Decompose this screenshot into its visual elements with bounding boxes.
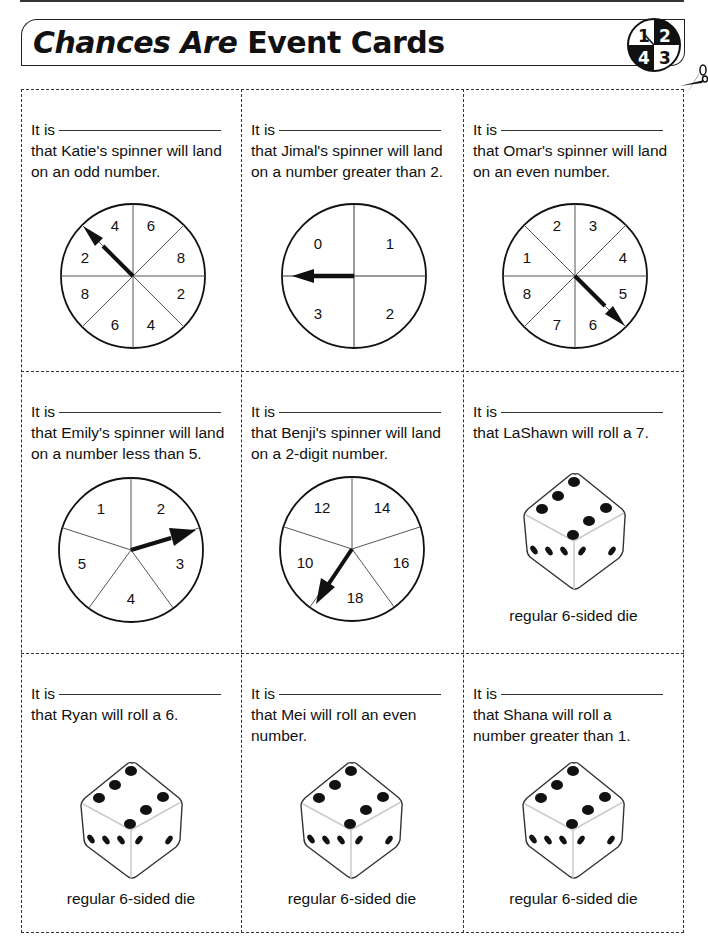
prefix: It is — [31, 403, 55, 420]
answer-blank[interactable] — [279, 693, 441, 695]
card-text: It is that Shana will roll a number grea… — [473, 683, 683, 746]
answer-blank[interactable] — [279, 129, 441, 131]
svg-text:2: 2 — [177, 285, 185, 302]
prefix: It is — [31, 121, 55, 138]
statement-line2: on a number greater than 2. — [251, 163, 443, 180]
spinner-5-sections: 14 16 18 10 12 — [278, 475, 426, 623]
svg-text:14: 14 — [374, 499, 391, 516]
prefix: It is — [251, 403, 275, 420]
event-card-shana: It is that Shana will roll a number grea… — [463, 653, 684, 933]
svg-text:8: 8 — [81, 285, 89, 302]
spinner-5-sections: 2 3 4 5 1 — [57, 476, 205, 624]
die-icon — [79, 760, 185, 880]
answer-blank[interactable] — [59, 411, 221, 413]
statement-line1: that Emily's spinner will land — [31, 424, 224, 441]
prefix: It is — [251, 121, 275, 138]
die-caption: regular 6-sided die — [21, 890, 241, 908]
statement-line1: that Benji's spinner will land — [251, 424, 441, 441]
die-caption: regular 6-sided die — [463, 607, 684, 625]
svg-text:4: 4 — [111, 217, 119, 234]
card-text: It is that LaShawn will roll a 7. — [473, 401, 683, 443]
svg-text:1: 1 — [523, 249, 531, 266]
title-italic: Chances Are — [33, 25, 237, 60]
die-caption: regular 6-sided die — [241, 890, 463, 908]
event-card-katie: It is that Katie's spinner will land on … — [21, 89, 241, 371]
svg-text:1: 1 — [386, 235, 394, 252]
svg-text:18: 18 — [347, 589, 364, 606]
statement-line1: that Ryan will roll a 6. — [31, 706, 178, 723]
svg-text:6: 6 — [111, 316, 119, 333]
statement-line1: that Omar's spinner will land — [473, 142, 667, 159]
svg-text:1: 1 — [97, 500, 105, 517]
card-text: It is that Benji's spinner will land on … — [251, 401, 461, 464]
die-caption: regular 6-sided die — [463, 890, 684, 908]
event-card-ryan: It is that Ryan will roll a 6. regular 6… — [21, 653, 241, 933]
card-text: It is that Katie's spinner will land on … — [31, 119, 241, 182]
prefix: It is — [31, 685, 55, 702]
prefix: It is — [473, 685, 497, 702]
svg-text:2: 2 — [386, 305, 394, 322]
svg-text:2: 2 — [157, 500, 165, 517]
statement-line2: number greater than 1. — [473, 727, 631, 744]
card-text: It is that Emily's spinner will land on … — [31, 401, 241, 464]
event-card-benji: It is that Benji's spinner will land on … — [241, 371, 463, 653]
svg-text:5: 5 — [78, 555, 86, 572]
statement-line1: that Katie's spinner will land — [31, 142, 222, 159]
spinner-8-sections: 3 4 5 6 7 8 1 2 — [501, 202, 649, 350]
statement-line2: on an even number. — [473, 163, 610, 180]
card-text: It is that Omar's spinner will land on a… — [473, 119, 683, 182]
answer-blank[interactable] — [501, 411, 663, 413]
event-card-jimal: It is that Jimal's spinner will land on … — [241, 89, 463, 371]
svg-text:2: 2 — [659, 26, 671, 46]
spinner-8-sections: 6 8 2 4 6 8 2 4 — [59, 202, 207, 350]
statement-line2: on a number less than 5. — [31, 445, 202, 462]
svg-text:0: 0 — [314, 235, 322, 252]
spinner-4-sections: 1 2 3 0 — [280, 202, 428, 350]
statement-line1: that LaShawn will roll a 7. — [473, 424, 649, 441]
statement-line2: on a 2-digit number. — [251, 445, 388, 462]
event-card-emily: It is that Emily's spinner will land on … — [21, 371, 241, 653]
die-icon — [299, 760, 405, 880]
answer-blank[interactable] — [59, 693, 221, 695]
die-icon — [522, 471, 628, 591]
page-title: Chances Are Event Cards — [33, 23, 445, 63]
statement-line2: on an odd number. — [31, 163, 160, 180]
svg-text:7: 7 — [553, 316, 561, 333]
svg-text:1: 1 — [638, 26, 650, 46]
svg-text:8: 8 — [523, 285, 531, 302]
event-card-omar: It is that Omar's spinner will land on a… — [463, 89, 684, 371]
svg-text:8: 8 — [177, 249, 185, 266]
die-icon — [521, 760, 627, 880]
svg-text:3: 3 — [589, 217, 597, 234]
svg-text:12: 12 — [314, 499, 331, 516]
statement-line1: that Jimal's spinner will land — [251, 142, 443, 159]
svg-text:6: 6 — [589, 316, 597, 333]
prefix: It is — [473, 121, 497, 138]
svg-text:16: 16 — [393, 554, 410, 571]
svg-text:4: 4 — [127, 590, 135, 607]
svg-text:3: 3 — [176, 555, 184, 572]
svg-text:2: 2 — [81, 249, 89, 266]
svg-text:5: 5 — [619, 285, 627, 302]
answer-blank[interactable] — [501, 129, 663, 131]
answer-blank[interactable] — [59, 129, 221, 131]
svg-text:6: 6 — [147, 217, 155, 234]
answer-blank[interactable] — [279, 411, 441, 413]
spinner-logo-icon: 1 2 3 4 — [626, 17, 682, 73]
svg-text:4: 4 — [147, 316, 155, 333]
card-text: It is that Mei will roll an even number. — [251, 683, 461, 746]
prefix: It is — [473, 403, 497, 420]
top-rule — [20, 0, 684, 2]
prefix: It is — [251, 685, 275, 702]
statement-line2: number. — [251, 727, 307, 744]
svg-text:10: 10 — [297, 554, 314, 571]
svg-text:4: 4 — [638, 48, 650, 68]
statement-line1: that Mei will roll an even — [251, 706, 416, 723]
event-card-lashawn: It is that LaShawn will roll a 7. regula… — [463, 371, 684, 653]
svg-text:3: 3 — [314, 305, 322, 322]
answer-blank[interactable] — [501, 693, 663, 695]
card-text: It is that Ryan will roll a 6. — [31, 683, 241, 725]
statement-line1: that Shana will roll a — [473, 706, 612, 723]
svg-text:2: 2 — [553, 217, 561, 234]
svg-text:3: 3 — [659, 48, 671, 68]
